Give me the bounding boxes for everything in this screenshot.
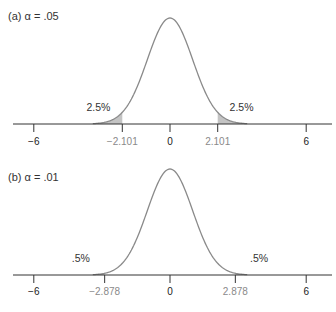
x-tick-label: 0 — [167, 286, 173, 297]
x-axis-ticks: −6−2.87802.8786 — [28, 275, 309, 297]
left-tail-label: .5% — [72, 252, 90, 264]
x-tick-label: 2.878 — [223, 286, 248, 297]
panel-a: (a) α = .05 −6−2.10102.1016 2.5% 2.5% — [8, 10, 332, 147]
chart-canvas: (a) α = .05 −6−2.10102.1016 2.5% 2.5% (b… — [0, 0, 336, 312]
distribution-curve — [93, 169, 247, 275]
panel-b: (b) α = .01 −6−2.87802.8786 .5% .5% — [8, 169, 332, 297]
x-tick-label: 2.101 — [205, 136, 230, 147]
panel-title: (a) α = .05 — [8, 10, 59, 22]
panel-title: (b) α = .01 — [8, 171, 59, 183]
x-tick-label: 0 — [167, 136, 173, 147]
t-distribution-figure: (a) α = .05 −6−2.10102.1016 2.5% 2.5% (b… — [0, 0, 336, 312]
x-tick-label: 6 — [303, 286, 309, 297]
x-tick-label: 6 — [303, 136, 309, 147]
x-tick-label: −2.101 — [107, 136, 138, 147]
x-tick-label: −2.878 — [89, 286, 120, 297]
x-tick-label: −6 — [28, 286, 40, 297]
x-tick-label: −6 — [28, 136, 40, 147]
distribution-curve — [93, 18, 247, 124]
left-tail-label: 2.5% — [87, 101, 111, 113]
right-tail-label: .5% — [250, 252, 268, 264]
right-tail-label: 2.5% — [230, 101, 254, 113]
x-axis-ticks: −6−2.10102.1016 — [28, 124, 309, 147]
